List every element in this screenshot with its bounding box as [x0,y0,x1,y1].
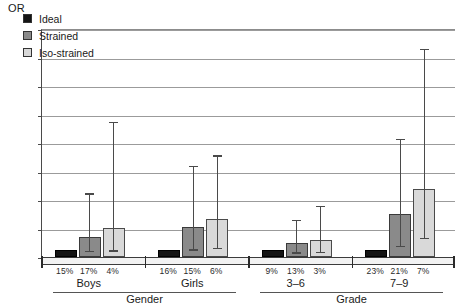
error-bar-cap-lower [109,250,118,251]
error-bar-cap-upper [316,206,325,207]
prevalence-label: 3% [304,266,336,276]
y-tick-mark [38,201,42,202]
group-label-79: 7–9 [367,277,431,289]
error-bar-cap-lower [292,252,301,253]
legend-swatch-icon [23,48,32,57]
bar-ideal-Boys [55,250,77,257]
error-bar-cap-lower [85,251,94,252]
prevalence-label: 6% [200,266,232,276]
legend-label: Strained [39,30,78,42]
gridline [42,59,455,60]
bar-ideal-79 [365,250,387,257]
y-tick-mark [38,144,42,145]
gridline [42,201,455,202]
supergroup-label-grade: Grade [307,293,397,305]
error-bar-line [424,49,425,239]
error-bar-cap-lower [189,249,198,250]
error-bar-line [320,207,321,253]
or-bar-chart: OR IdealStrainedIso-strained 04812162024… [0,0,460,306]
legend-item-iso-strained: Iso-strained [23,44,94,61]
legend-item-strained: Strained [23,27,94,44]
legend-label: Iso-strained [39,47,94,59]
error-bar-line [296,220,297,253]
error-bar-cap-upper [85,193,94,194]
gridline [42,144,455,145]
legend-item-ideal: Ideal [23,10,94,27]
error-bar-cap-upper [109,122,118,123]
chart-legend: IdealStrainedIso-strained [23,10,94,61]
y-tick-mark [38,87,42,88]
error-bar-line [400,140,401,247]
x-axis-separator [453,256,455,268]
error-bar-line [217,156,218,249]
y-tick-mark [38,230,42,231]
x-axis-separator [352,256,354,268]
error-bar-cap-upper [292,220,301,221]
legend-label: Ideal [39,13,62,25]
plot-area [41,29,455,257]
error-bar-line [193,167,194,250]
legend-swatch-icon [23,14,32,23]
x-axis-separator [41,256,43,268]
bar-ideal-Girls [158,250,180,257]
prevalence-label: 7% [407,266,439,276]
gridline [42,116,455,117]
error-bar-line [89,194,90,252]
y-tick-mark [38,173,42,174]
x-axis-band [41,257,455,265]
error-bar-cap-lower [396,246,405,247]
gridline [42,173,455,174]
error-bar-cap-upper [213,155,222,156]
error-bar-cap-lower [316,252,325,253]
supergroup-label-gender: Gender [100,293,190,305]
x-axis-separator [145,256,147,268]
gridline [42,30,455,31]
group-label-Girls: Girls [160,277,224,289]
prevalence-label: 4% [97,266,129,276]
error-bar-line [113,123,114,251]
error-bar-cap-upper [420,49,429,50]
error-bar-cap-upper [189,166,198,167]
group-label-36: 3–6 [264,277,328,289]
bar-ideal-36 [262,250,284,257]
error-bar-cap-lower [213,248,222,249]
group-label-Boys: Boys [57,277,121,289]
gridline [42,87,455,88]
x-axis-separator [248,256,250,268]
legend-swatch-icon [23,31,32,40]
error-bar-cap-lower [420,238,429,239]
y-tick-mark [38,116,42,117]
error-bar-cap-upper [396,139,405,140]
